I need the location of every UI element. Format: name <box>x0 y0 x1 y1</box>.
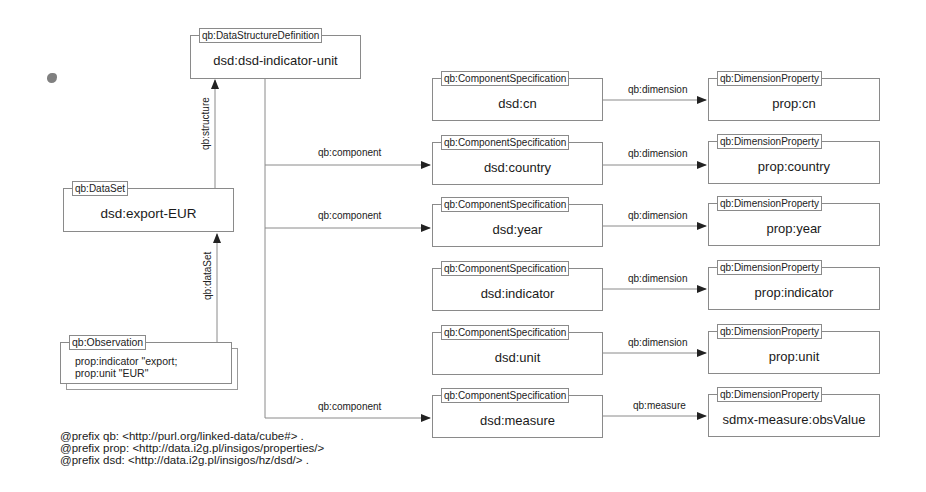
prefix-declarations: @prefix qb: <http://purl.org/linked-data… <box>60 430 324 466</box>
node-type-tag: qb:DimensionProperty <box>717 387 822 402</box>
property-node-measure: qb:DimensionProperty sdmx-measure:obsVal… <box>708 394 880 437</box>
edge-label-dimension: qb:dimension <box>628 84 687 95</box>
prefix-line: @prefix qb: <http://purl.org/linked-data… <box>60 430 324 442</box>
component-node-measure: qb:ComponentSpecification dsd:measure <box>432 395 603 438</box>
node-title: dsd:indicator <box>433 285 602 300</box>
prefix-line: @prefix dsd: <http://data.i2g.pl/insigos… <box>60 454 324 466</box>
node-title: prop:indicator <box>709 284 879 299</box>
node-type-tag: qb:DimensionProperty <box>717 71 822 86</box>
dataset-node: qb:DataSet dsd:export-EUR <box>63 188 234 232</box>
edge-label-component: qb:component <box>318 210 381 221</box>
edge-label-component: qb:component <box>318 401 381 412</box>
edge-label-dimension: qb:dimension <box>628 337 687 348</box>
node-type-tag: qb:ComponentSpecification <box>441 71 569 86</box>
edge-label-dimension: qb:dimension <box>628 273 687 284</box>
node-title: sdmx-measure:obsValue <box>709 411 879 426</box>
edge-label-measure: qb:measure <box>633 400 686 411</box>
node-title: prop:year <box>709 220 879 235</box>
node-title: dsd:export-EUR <box>64 206 233 221</box>
node-type-tag: qb:DataSet <box>72 181 128 196</box>
property-node-unit: qb:DimensionProperty prop:unit <box>708 331 880 374</box>
observation-line: prop:indicator "export; <box>75 355 177 367</box>
component-node-indicator: qb:ComponentSpecification dsd:indicator <box>432 268 603 311</box>
node-type-tag: qb:ComponentSpecification <box>441 388 569 403</box>
observation-line: prop:unit "EUR" <box>75 367 177 379</box>
node-title: dsd:year <box>433 221 602 236</box>
edge-label-dataset: qb:dataSet <box>202 252 213 300</box>
node-title: dsd:dsd-indicator-unit <box>191 53 360 68</box>
node-title: dsd:country <box>433 159 602 174</box>
property-node-indicator: qb:DimensionProperty prop:indicator <box>708 267 880 310</box>
observation-node: qb:Observation prop:indicator "export; p… <box>60 342 232 384</box>
node-type-tag: qb:DataStructureDefinition <box>199 28 322 43</box>
node-title: prop:country <box>709 158 879 173</box>
observation-properties: prop:indicator "export; prop:unit "EUR" <box>75 355 177 379</box>
node-title: dsd:unit <box>433 349 602 364</box>
component-node-country: qb:ComponentSpecification dsd:country <box>432 142 603 185</box>
edge-label-structure: qb:structure <box>200 97 211 150</box>
node-title: dsd:cn <box>433 95 602 110</box>
property-node-cn: qb:DimensionProperty prop:cn <box>708 78 880 121</box>
edge-label-component: qb:component <box>318 147 381 158</box>
edge-label-dimension: qb:dimension <box>628 148 687 159</box>
property-node-year: qb:DimensionProperty prop:year <box>708 203 880 246</box>
node-type-tag: qb:DimensionProperty <box>717 134 822 149</box>
node-title: prop:unit <box>709 348 879 363</box>
node-type-tag: qb:ComponentSpecification <box>441 197 569 212</box>
edge-label-dimension: qb:dimension <box>628 210 687 221</box>
property-node-country: qb:DimensionProperty prop:country <box>708 141 880 184</box>
node-type-tag: qb:ComponentSpecification <box>441 135 569 150</box>
node-title: dsd:measure <box>433 412 602 427</box>
prefix-line: @prefix prop: <http://data.i2g.pl/insigo… <box>60 442 324 454</box>
diagram-canvas: qb:DataStructureDefinition dsd:dsd-indic… <box>0 0 926 492</box>
node-title: prop:cn <box>709 95 879 110</box>
component-node-cn: qb:ComponentSpecification dsd:cn <box>432 78 603 121</box>
node-type-tag: qb:DimensionProperty <box>717 324 822 339</box>
dsd-node: qb:DataStructureDefinition dsd:dsd-indic… <box>190 35 361 79</box>
node-type-tag: qb:Observation <box>69 335 146 350</box>
node-type-tag: qb:DimensionProperty <box>717 260 822 275</box>
node-type-tag: qb:ComponentSpecification <box>441 325 569 340</box>
node-type-tag: qb:DimensionProperty <box>717 196 822 211</box>
component-node-year: qb:ComponentSpecification dsd:year <box>432 204 603 247</box>
component-node-unit: qb:ComponentSpecification dsd:unit <box>432 332 603 375</box>
node-type-tag: qb:ComponentSpecification <box>441 261 569 276</box>
